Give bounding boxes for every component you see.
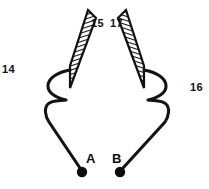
figure-canvas xyxy=(0,0,209,189)
terminal-dot-b xyxy=(115,167,125,177)
patent-figure: 14 15 17 16 A B xyxy=(0,0,209,189)
reference-numeral-17: 17 xyxy=(110,18,123,29)
reference-numeral-16: 16 xyxy=(190,82,203,93)
reference-numeral-15: 15 xyxy=(91,18,104,29)
left-lead-wire xyxy=(45,70,80,168)
figure-caption-partial xyxy=(0,186,209,189)
terminal-dot-a xyxy=(77,167,87,177)
terminal-label-a: A xyxy=(86,152,95,165)
reference-numeral-14: 14 xyxy=(2,64,15,75)
right-lead-wire xyxy=(123,70,169,168)
terminal-label-b: B xyxy=(112,152,121,165)
